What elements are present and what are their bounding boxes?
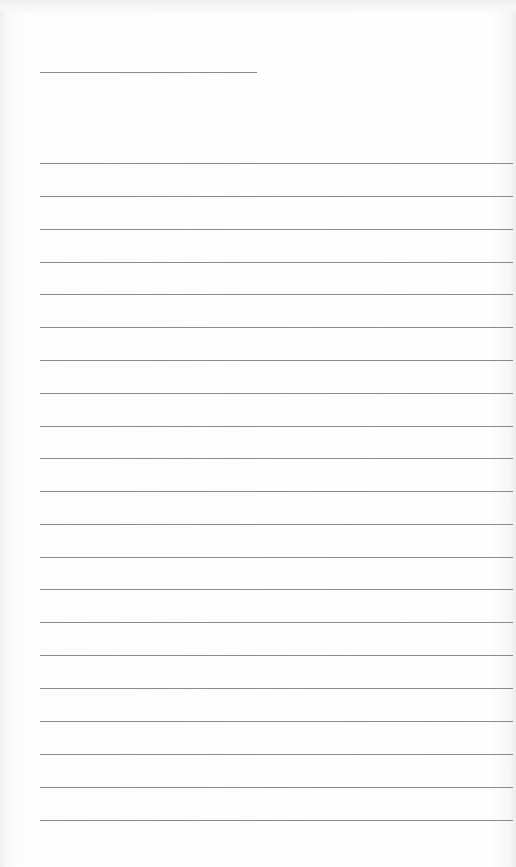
ruled-line-18 — [40, 721, 513, 722]
ruled-lines-container — [0, 0, 516, 867]
ruled-line-8 — [40, 393, 513, 394]
ruled-line-9 — [40, 426, 513, 427]
lined-paper-sheet — [0, 0, 516, 867]
ruled-line-1 — [40, 163, 513, 164]
ruled-line-5 — [40, 294, 513, 295]
ruled-line-13 — [40, 557, 513, 558]
ruled-line-6 — [40, 327, 513, 328]
ruled-line-3 — [40, 229, 513, 230]
ruled-line-2 — [40, 196, 513, 197]
ruled-line-16 — [40, 655, 513, 656]
ruled-line-10 — [40, 458, 513, 459]
ruled-line-21 — [40, 820, 513, 821]
ruled-line-4 — [40, 262, 513, 263]
ruled-line-19 — [40, 754, 513, 755]
ruled-line-17 — [40, 688, 513, 689]
ruled-line-12 — [40, 524, 513, 525]
ruled-line-11 — [40, 491, 513, 492]
ruled-line-20 — [40, 787, 513, 788]
ruled-line-15 — [40, 622, 513, 623]
ruled-line-14 — [40, 589, 513, 590]
ruled-line-7 — [40, 360, 513, 361]
